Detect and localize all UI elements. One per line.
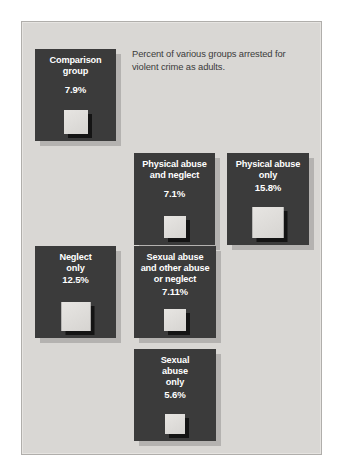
card-value: 7.1% xyxy=(134,188,215,200)
card-comparison-group: Comparison group 7.9% xyxy=(35,49,116,141)
card-neglect-only: Neglect only 12.5% xyxy=(35,246,116,338)
card-label: Sexual abuse and other abuse or neglect xyxy=(134,252,216,286)
card-physical-abuse-and-neglect: Physical abuse and neglect 7.1% xyxy=(134,153,215,245)
card-label: Sexual abuse only xyxy=(134,355,216,389)
value-swatch xyxy=(164,216,186,238)
card-label: Physical abuse and neglect xyxy=(134,159,215,181)
card-value: 7.9% xyxy=(35,84,116,96)
value-swatch xyxy=(61,302,90,331)
chart-panel: Percent of various groups arrested for v… xyxy=(21,21,322,455)
card-value: 5.6% xyxy=(134,389,216,401)
infographic-figure: Percent of various groups arrested for v… xyxy=(0,0,343,476)
card-sexual-abuse-only: Sexual abuse only 5.6% xyxy=(134,349,216,441)
chart-caption: Percent of various groups arrested for v… xyxy=(132,48,312,73)
swatch-area xyxy=(134,204,215,238)
swatch-area xyxy=(227,200,309,238)
card-label: Physical abuse only xyxy=(227,159,309,181)
card-value: 7.11% xyxy=(134,286,216,298)
card-sexual-abuse-and-other: Sexual abuse and other abuse or neglect … xyxy=(134,246,216,338)
swatch-area xyxy=(35,100,116,134)
value-swatch xyxy=(165,414,185,434)
value-swatch xyxy=(253,207,284,238)
swatch-area xyxy=(134,400,216,434)
swatch-area xyxy=(134,297,216,331)
value-swatch xyxy=(164,309,186,331)
value-swatch xyxy=(64,110,88,134)
card-value: 15.8% xyxy=(227,182,309,194)
card-value: 12.5% xyxy=(35,274,116,286)
swatch-area xyxy=(35,293,116,331)
card-label: Comparison group xyxy=(35,55,116,77)
card-label: Neglect only xyxy=(35,252,116,274)
card-physical-abuse-only: Physical abuse only 15.8% xyxy=(227,153,309,245)
